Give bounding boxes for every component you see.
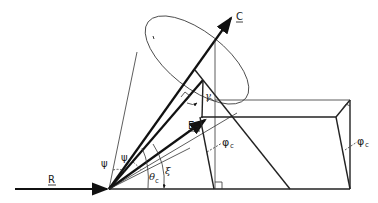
projection-right-slant: [336, 117, 350, 189]
cone-base-ellipse: [131, 0, 263, 120]
ellipse-tick: [153, 36, 154, 39]
label-phi-right-subscript: c: [365, 141, 369, 149]
right-angle-marker-base: [215, 182, 222, 189]
vector-diagram: R C E 2 γ ψ ψ θ c ξ: [0, 0, 378, 203]
label-r: R: [48, 174, 55, 185]
label-e2: E: [188, 120, 194, 131]
gamma-arc: [187, 103, 197, 105]
cone-line-inner: [109, 80, 203, 189]
label-xi: ξ: [165, 165, 171, 176]
label-psi-outer: ψ: [101, 158, 108, 169]
label-theta-subscript: c: [155, 177, 159, 185]
label-gamma: γ: [205, 90, 211, 101]
cone-generator-right: [109, 113, 237, 189]
label-phi-mid: φ: [222, 136, 229, 149]
label-phi-mid-subscript: c: [230, 142, 234, 150]
phi-right-arc: [345, 142, 357, 150]
perp-segment: [202, 80, 203, 118]
phi-mid-arc: [207, 143, 222, 152]
label-e2-subscript: 2: [195, 125, 199, 133]
projection-right-upper: [336, 100, 350, 117]
theta-arc: [142, 148, 148, 188]
label-c: C: [236, 11, 243, 22]
label-phi-right: φ: [357, 135, 364, 148]
label-psi-inner: ψ: [121, 152, 128, 163]
vector-c: [109, 18, 231, 189]
